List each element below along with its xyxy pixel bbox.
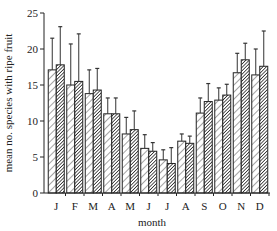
bar-dense: [260, 31, 268, 193]
x-tick-label: M: [88, 200, 98, 212]
bar-light: [48, 38, 56, 193]
y-tick-label: 20: [27, 43, 39, 55]
bar-dense: [112, 98, 120, 193]
bar-light: [104, 98, 112, 193]
bar-light: [122, 117, 130, 193]
x-tick-label: F: [72, 200, 78, 212]
bar-light: [67, 44, 75, 193]
bar-light: [252, 49, 260, 193]
x-tick-label: D: [256, 200, 264, 212]
y-axis-label: mean no. species with ripe fruit: [2, 34, 14, 173]
bar-dense: [130, 111, 138, 193]
y-tick-label: 15: [27, 79, 39, 91]
y-tick-label: 10: [27, 115, 39, 127]
x-tick-label: A: [108, 200, 116, 212]
bars-group: [48, 27, 268, 193]
y-tick-label: 0: [33, 187, 39, 199]
bar-dense: [56, 27, 64, 193]
x-tick-label: M: [125, 200, 135, 212]
bar-chart: 0510152025 JFMAMJJASOND mean no. species…: [0, 0, 277, 231]
y-tick-label: 5: [33, 151, 39, 163]
x-tick-label: J: [147, 200, 152, 212]
bar-light: [159, 150, 167, 193]
bar-light: [215, 88, 223, 193]
bar-dense: [186, 136, 194, 193]
x-tick-label: N: [237, 200, 245, 212]
bar-dense: [75, 34, 83, 193]
bar-dense: [204, 84, 212, 193]
bar-dense: [93, 68, 101, 193]
bar-dense: [167, 148, 175, 193]
x-tick-label: J: [165, 200, 170, 212]
bar-light: [233, 53, 241, 193]
bar-light: [196, 98, 204, 193]
x-tick-label: J: [54, 200, 59, 212]
bar-dense: [241, 43, 249, 193]
y-axis: 0510152025: [27, 7, 44, 199]
y-tick-label: 25: [27, 7, 39, 19]
bar-light: [141, 135, 149, 193]
x-tick-label: S: [201, 200, 207, 212]
x-tick-label: A: [182, 200, 190, 212]
chart-canvas: 0510152025 JFMAMJJASOND mean no. species…: [0, 0, 277, 231]
x-axis-label: month: [138, 216, 167, 228]
x-tick-label: O: [219, 200, 227, 212]
bar-dense: [149, 143, 157, 193]
bar-dense: [223, 84, 231, 193]
bar-light: [85, 70, 93, 193]
bar-light: [178, 134, 186, 193]
x-axis: JFMAMJJASOND: [44, 193, 270, 212]
